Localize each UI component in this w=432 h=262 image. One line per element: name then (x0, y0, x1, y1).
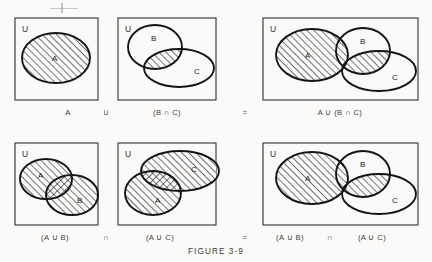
panel-a-cup-c-label-C: C (191, 165, 197, 174)
panel-ab-cap-ac-expression-right: (A ∪ C) (358, 233, 386, 242)
panel-a: U A (15, 18, 98, 100)
connector-equals-top: = (243, 108, 248, 117)
panel-a-cup-bc-expression: A ∪ (B ∩ C) (318, 108, 363, 117)
connector-equals-bottom: = (243, 233, 248, 242)
panel-b-cap-c: U B C (118, 18, 216, 100)
panel-a-cup-bc-universe-label: U (270, 24, 276, 34)
panel-a-cup-b-expression: (A ∪ B) (41, 233, 69, 242)
venn-diagram-figure: U A A ∪ U B C (B ∩ C) = (0, 0, 432, 262)
panel-a-cup-bc-label-B: B (360, 37, 365, 46)
panel-b-cap-c-label-B: B (151, 34, 156, 43)
panel-b-cap-c-label-C: C (194, 67, 200, 76)
panel-a-cup-c-universe-label: U (125, 149, 131, 159)
figure-3-9: U A A ∪ U B C (B ∩ C) = (0, 0, 432, 262)
panel-a-cup-c-label-A: A (155, 196, 161, 205)
panel-b-cap-c-expression: (B ∩ C) (153, 108, 181, 117)
panel-ab-cap-ac-label-A: A (305, 174, 311, 183)
panel-ab-cap-ac-label-B: B (360, 160, 365, 169)
panel-a-label-A: A (52, 54, 58, 63)
panel-ab-cap-ac-expression-left: (A ∪ B) (276, 233, 304, 242)
figure-caption: FIGURE 3-9 (188, 247, 244, 256)
panel-a-cup-b-label-B: B (77, 196, 82, 205)
panel-a-universe-label: U (22, 24, 28, 34)
panel-a-cup-b-universe-label: U (22, 149, 28, 159)
panel-a-cup-bc-label-A: A (305, 51, 311, 60)
panel-a-cup-c: U C A (118, 143, 219, 225)
panel-a-expression: A (65, 108, 71, 117)
panel-ab-cap-ac: U A B C (263, 143, 418, 225)
connector-union-top: ∪ (103, 108, 109, 117)
panel-a-cup-bc: U A B C (263, 18, 418, 100)
connector-intersection-bottom: ∩ (103, 233, 108, 242)
panel-a-cup-b-label-A: A (38, 171, 44, 180)
panel-a-cup-c-expression: (A ∪ C) (146, 233, 174, 242)
panel-ab-cap-ac-universe-label: U (270, 149, 276, 159)
panel-ab-cap-ac-expression-op: ∩ (327, 233, 333, 242)
panel-ab-cap-ac-label-C: C (392, 196, 398, 205)
panel-a-cup-b: U A B (15, 143, 98, 225)
panel-a-cup-bc-label-C: C (392, 73, 398, 82)
panel-b-cap-c-universe-label: U (125, 24, 131, 34)
